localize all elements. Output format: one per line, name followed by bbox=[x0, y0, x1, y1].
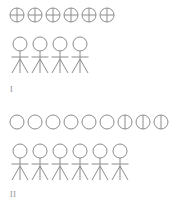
figure-leg-left bbox=[52, 166, 60, 180]
circle-icon bbox=[46, 115, 60, 129]
group-I bbox=[10, 8, 114, 73]
figure-leg-left bbox=[72, 59, 80, 73]
figure-leg-left bbox=[12, 59, 20, 73]
circle-icon bbox=[28, 115, 42, 129]
figure-leg-right bbox=[60, 166, 68, 180]
group-label-i: I bbox=[10, 86, 13, 94]
figure-head bbox=[13, 37, 27, 51]
stick-figure bbox=[92, 144, 109, 180]
circle-outline bbox=[46, 115, 60, 129]
stick-figure bbox=[72, 37, 89, 73]
figure-leg-right bbox=[80, 59, 88, 73]
circle-icon bbox=[10, 115, 24, 129]
figure-leg-left bbox=[92, 166, 100, 180]
figure-head bbox=[33, 144, 47, 158]
half-split-circle-icon bbox=[118, 115, 132, 129]
figure-leg-right bbox=[60, 59, 68, 73]
figure-head bbox=[33, 37, 47, 51]
group-label-ii: II bbox=[10, 191, 16, 199]
figure-leg-right bbox=[120, 166, 128, 180]
figure-head bbox=[73, 144, 87, 158]
circle-icon bbox=[100, 115, 114, 129]
figure-leg-left bbox=[112, 166, 120, 180]
crossed-circle-row bbox=[10, 8, 114, 22]
figure-leg-left bbox=[32, 59, 40, 73]
figure-leg-right bbox=[20, 59, 28, 73]
figure-leg-left bbox=[32, 166, 40, 180]
figure-head bbox=[93, 144, 107, 158]
crossed-circle-icon bbox=[100, 8, 114, 22]
circle-row bbox=[10, 115, 168, 129]
stick-figure bbox=[72, 144, 89, 180]
stick-figure-row bbox=[12, 37, 89, 73]
figure-head bbox=[73, 37, 87, 51]
group-II bbox=[10, 115, 168, 180]
figure-head bbox=[113, 144, 127, 158]
figure-leg-right bbox=[40, 166, 48, 180]
stick-figure bbox=[32, 144, 49, 180]
stick-figure bbox=[32, 37, 49, 73]
figure-leg-right bbox=[80, 166, 88, 180]
circle-icon bbox=[64, 115, 78, 129]
figure-leg-right bbox=[40, 59, 48, 73]
circle-outline bbox=[10, 115, 24, 129]
figure-leg-right bbox=[100, 166, 108, 180]
figure-canvas bbox=[0, 0, 187, 209]
crossed-circle-icon bbox=[82, 8, 96, 22]
crossed-circle-icon bbox=[10, 8, 24, 22]
stick-figure bbox=[52, 37, 69, 73]
figure-leg-left bbox=[72, 166, 80, 180]
figure-leg-right bbox=[20, 166, 28, 180]
circle-outline bbox=[82, 115, 96, 129]
stick-figure bbox=[112, 144, 129, 180]
half-split-circle-icon bbox=[136, 115, 150, 129]
figure-leg-left bbox=[52, 59, 60, 73]
stick-figure-row bbox=[12, 144, 129, 180]
stick-figure-diagram bbox=[0, 0, 187, 209]
stick-figure bbox=[12, 37, 29, 73]
crossed-circle-icon bbox=[46, 8, 60, 22]
stick-figure bbox=[52, 144, 69, 180]
stick-figure bbox=[12, 144, 29, 180]
crossed-circle-icon bbox=[64, 8, 78, 22]
figure-head bbox=[53, 37, 67, 51]
circle-icon bbox=[82, 115, 96, 129]
figure-head bbox=[53, 144, 67, 158]
crossed-circle-icon bbox=[28, 8, 42, 22]
circle-outline bbox=[64, 115, 78, 129]
circle-outline bbox=[28, 115, 42, 129]
half-split-circle-icon bbox=[154, 115, 168, 129]
figure-head bbox=[13, 144, 27, 158]
figure-leg-left bbox=[12, 166, 20, 180]
circle-outline bbox=[100, 115, 114, 129]
